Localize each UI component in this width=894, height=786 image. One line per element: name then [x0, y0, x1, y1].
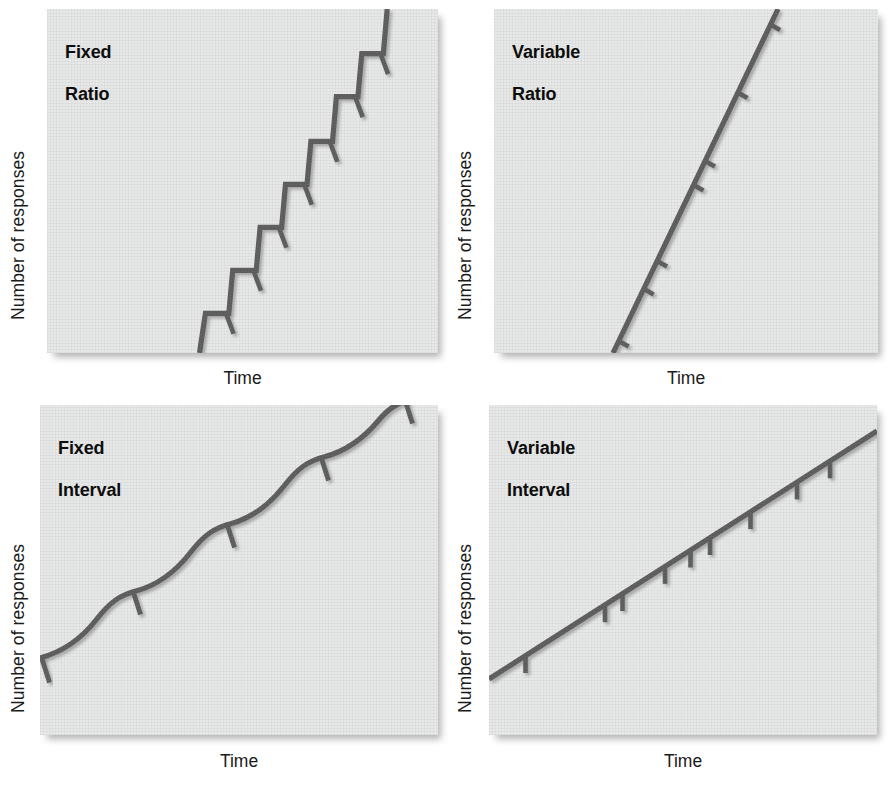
variable-ratio-line	[613, 9, 780, 353]
panel-title-fixed-ratio: Fixed Ratio	[65, 21, 112, 105]
plot-area-variable-interval: Variable Interval	[489, 405, 877, 735]
y-axis-label-variable-ratio: Number of responses	[455, 151, 476, 320]
panel-title-fixed-interval: Fixed Interval	[58, 417, 121, 501]
plot-area-fixed-interval: Fixed Interval	[40, 405, 438, 735]
fixed-interval-hash-mark-first	[42, 658, 50, 683]
panel-title-line2: Ratio	[512, 84, 557, 104]
panel-fixed-ratio: Number of responses	[0, 0, 447, 393]
fixed-ratio-line	[200, 9, 389, 353]
x-axis-label-fixed-ratio: Time	[47, 368, 438, 389]
fixed-interval-hash-marks	[133, 405, 413, 615]
panel-title-line1: Variable	[507, 438, 575, 458]
panel-variable-interval: Number of responses	[447, 393, 894, 786]
plot-area-variable-ratio: Variable Ratio	[494, 9, 878, 353]
panel-title-line1: Fixed	[58, 438, 105, 458]
panel-title-line1: Variable	[512, 42, 580, 62]
panel-title-line2: Interval	[58, 480, 121, 500]
x-axis-label-variable-ratio: Time	[494, 368, 878, 389]
plot-area-fixed-ratio: Fixed Ratio	[47, 9, 438, 353]
x-axis-label-fixed-interval: Time	[40, 751, 438, 772]
panel-title-line1: Fixed	[65, 42, 112, 62]
panel-fixed-interval: Number of responses	[0, 393, 447, 786]
panel-title-variable-interval: Variable Interval	[507, 417, 575, 501]
x-axis-label-variable-interval: Time	[489, 751, 877, 772]
panel-title-line2: Interval	[507, 480, 570, 500]
y-axis-label-fixed-ratio: Number of responses	[8, 151, 29, 320]
panel-title-variable-ratio: Variable Ratio	[512, 21, 580, 105]
fixed-ratio-hash-marks	[226, 54, 388, 334]
panel-title-line2: Ratio	[65, 84, 110, 104]
y-axis-label-variable-interval: Number of responses	[455, 544, 476, 713]
y-axis-label-fixed-interval: Number of responses	[8, 544, 29, 713]
panel-variable-ratio: Number of responses	[447, 0, 894, 393]
reinforcement-schedules-figure: Number of responses	[0, 0, 894, 786]
variable-ratio-hash-marks	[619, 25, 780, 347]
